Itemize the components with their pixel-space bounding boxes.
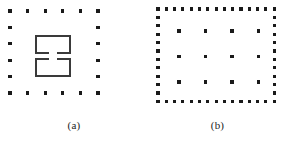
grid-dot <box>8 9 11 12</box>
grid-dot <box>96 59 99 62</box>
border-dot <box>273 58 276 61</box>
interior-dot <box>257 80 261 84</box>
grid-dot <box>96 26 99 29</box>
grid-dot <box>61 91 64 94</box>
interior-dot <box>204 29 208 33</box>
panel-a: (a) <box>0 0 148 112</box>
border-dot <box>198 100 201 103</box>
edge-right <box>69 35 71 54</box>
border-dot <box>165 100 168 103</box>
border-dot <box>223 7 226 10</box>
border-dot <box>181 100 184 103</box>
grid-dot <box>79 91 82 94</box>
border-dot <box>239 100 242 103</box>
grid-dot <box>96 75 99 78</box>
grid-dot <box>96 9 99 12</box>
border-dot <box>273 91 276 94</box>
interior-dot <box>177 29 181 33</box>
border-dot <box>156 49 159 52</box>
border-dot <box>173 7 176 10</box>
border-dot <box>273 33 276 36</box>
border-dot <box>273 83 276 86</box>
border-dot <box>223 100 226 103</box>
panel-a-caption: (a) <box>0 120 148 131</box>
panel-b-stage <box>148 0 287 112</box>
grid-dot <box>96 42 99 45</box>
border-dot <box>273 16 276 19</box>
grid-dot <box>8 75 11 78</box>
border-dot <box>273 41 276 44</box>
panel-a-stage <box>0 0 148 112</box>
interior-dot <box>230 55 234 59</box>
edge-left <box>35 58 37 77</box>
border-dot <box>156 33 159 36</box>
edge-top-left <box>35 58 49 60</box>
border-dot <box>156 58 159 61</box>
lower-open-rectangle <box>35 58 71 77</box>
border-dot <box>273 66 276 69</box>
border-dot <box>248 7 251 10</box>
border-dot <box>156 16 159 19</box>
border-dot <box>165 7 168 10</box>
border-dot <box>198 7 201 10</box>
border-dot <box>273 7 276 10</box>
border-dot <box>264 100 267 103</box>
border-dot <box>206 100 209 103</box>
border-dot <box>248 100 251 103</box>
border-dot <box>273 100 276 103</box>
border-dot <box>256 7 259 10</box>
border-dot <box>206 7 209 10</box>
border-dot <box>181 7 184 10</box>
edge-bottom-left <box>35 52 49 54</box>
edge-right <box>69 58 71 77</box>
border-dot <box>156 91 159 94</box>
upper-open-rectangle <box>35 35 71 54</box>
interior-dot <box>204 55 208 59</box>
edge-bottom <box>35 75 71 77</box>
border-dot <box>156 7 159 10</box>
border-dot <box>215 7 218 10</box>
grid-dot <box>26 9 29 12</box>
grid-dot <box>26 91 29 94</box>
border-dot <box>156 75 159 78</box>
interior-dot <box>257 29 261 33</box>
interior-dot <box>177 80 181 84</box>
border-dot <box>256 100 259 103</box>
border-dot <box>156 100 159 103</box>
edge-top <box>35 35 71 37</box>
border-dot <box>156 66 159 69</box>
border-dot <box>231 7 234 10</box>
border-dot <box>273 24 276 27</box>
grid-dot <box>61 9 64 12</box>
interior-dot <box>230 29 234 33</box>
border-dot <box>173 100 176 103</box>
grid-dot <box>79 9 82 12</box>
border-dot <box>215 100 218 103</box>
interior-dot <box>204 80 208 84</box>
panel-b: (b) <box>148 0 287 112</box>
grid-dot <box>8 59 11 62</box>
panel-b-caption: (b) <box>148 120 287 131</box>
border-dot <box>156 83 159 86</box>
border-dot <box>273 75 276 78</box>
border-dot <box>190 7 193 10</box>
edge-left <box>35 35 37 54</box>
border-dot <box>156 24 159 27</box>
grid-dot <box>8 91 11 94</box>
interior-dot <box>177 55 181 59</box>
border-dot <box>190 100 193 103</box>
border-dot <box>156 41 159 44</box>
grid-dot <box>8 26 11 29</box>
border-dot <box>239 7 242 10</box>
border-dot <box>273 49 276 52</box>
border-dot <box>231 100 234 103</box>
interior-dot <box>230 80 234 84</box>
grid-dot <box>44 9 47 12</box>
grid-dot <box>44 91 47 94</box>
grid-dot <box>96 91 99 94</box>
grid-dot <box>8 42 11 45</box>
border-dot <box>264 7 267 10</box>
interior-dot <box>257 55 261 59</box>
figure-root: (a) (b) <box>0 0 287 147</box>
